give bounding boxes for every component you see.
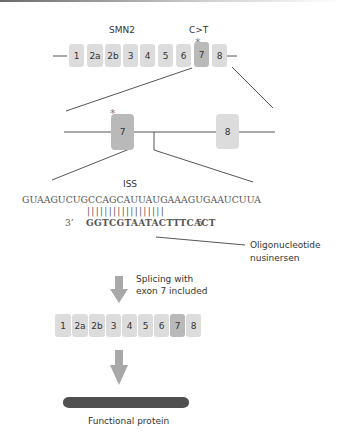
zoom-exon-8: 8 [216, 114, 239, 149]
translation-arrow-icon [110, 350, 128, 385]
oligo-drug-label: nusinersen [250, 253, 299, 263]
iss-label: ISS [123, 179, 137, 189]
mrna-exon-2b: 2b [89, 314, 105, 337]
mrna-exon-2a: 2a [72, 314, 88, 337]
mrna-exon-4: 4 [122, 314, 137, 337]
splicing-label-line2: exon 7 included [136, 286, 207, 296]
gene-name-label: SMN2 [109, 25, 135, 35]
gene-exon-7: 7 [194, 42, 209, 67]
oligo-5prime-label: 5’ [197, 218, 206, 228]
oligo-3prime-label: 3’ [65, 218, 74, 228]
splicing-arrow-icon [110, 276, 128, 303]
mrna-exon-6: 6 [154, 314, 169, 337]
gene-exon-6: 6 [176, 44, 191, 67]
gene-exon-4: 4 [140, 44, 155, 67]
mutation-label: C>T [189, 25, 208, 35]
gene-exon-3: 3 [123, 44, 138, 67]
zoom-exon-7: 7 [111, 114, 134, 150]
gene-exon-1: 1 [69, 44, 84, 67]
mrna-exon-1: 1 [55, 314, 71, 337]
oligo-name-label: Oligonucleotide [250, 240, 320, 250]
mrna-exon-8: 8 [186, 314, 201, 337]
pairing-bars: |||||||||||||||||| [87, 206, 165, 216]
gene-exon-2a: 2a [87, 44, 103, 67]
mrna-exon-5: 5 [138, 314, 153, 337]
functional-protein-bar [63, 397, 189, 408]
mrna-exon-3: 3 [106, 314, 121, 337]
splicing-label-line1: Splicing with [136, 274, 193, 284]
rna-sequence: GUAAGUCUGCCAGCAUUAUGAAAGUGAAUCUUA [22, 194, 261, 205]
gene-exon-8: 8 [212, 44, 227, 67]
functional-protein-label: Functional protein [88, 416, 169, 426]
gene-exon-2b: 2b [105, 44, 121, 67]
mrna-exon-7: 7 [170, 314, 185, 337]
gene-exon-5: 5 [158, 44, 173, 67]
